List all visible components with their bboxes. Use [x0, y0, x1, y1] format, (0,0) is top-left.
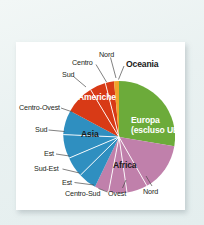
label-europa-line2: (escluso UE) [131, 125, 181, 135]
callout-africa-centro-sud: Centro-Sud [65, 190, 100, 197]
label-americhe: Americhe [78, 93, 116, 102]
callout-africa-ovest: Ovest [108, 190, 126, 197]
label-africa: Africa [113, 161, 136, 170]
label-oceania: Oceania [126, 60, 158, 69]
callout-americhe-centro: Centro [72, 59, 93, 66]
label-europa-line1: Europa [131, 115, 160, 125]
pie-chart-svg [0, 0, 204, 225]
label-asia: Asia [81, 130, 99, 139]
pie-chart: Nord Centro Sud Oceania Europa(escluso U… [0, 0, 204, 225]
callout-africa-est: Est [62, 179, 72, 186]
slice-europa[interactable] [119, 81, 175, 146]
callout-asia-est: Est [44, 150, 54, 157]
callout-americhe-nord: Nord [99, 51, 114, 58]
callout-asia-sud-est: Sud-Est [34, 165, 59, 172]
callout-asia-centro-ovest: Centro-Ovest [19, 104, 60, 111]
label-europa: Europa(escluso UE) [131, 116, 189, 135]
callout-americhe-sud: Sud [62, 71, 74, 78]
callout-africa-nord: Nord [143, 188, 158, 195]
callout-asia-sud: Sud [35, 126, 47, 133]
